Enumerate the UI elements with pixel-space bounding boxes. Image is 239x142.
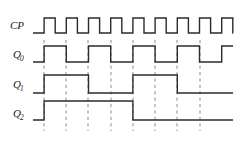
signal-label-cp: CP xyxy=(10,19,24,31)
signal-label-q1-subscript: 1 xyxy=(20,84,24,93)
waveform-cp xyxy=(33,18,233,33)
timing-diagram-svg: CP Q 0 Q 1 Q 2 xyxy=(0,0,239,142)
waveform-q2 xyxy=(33,101,233,120)
timing-diagram-root: CP Q 0 Q 1 Q 2 xyxy=(0,0,239,142)
signal-label-q0-subscript: 0 xyxy=(20,54,24,63)
signal-label-q2-subscript: 2 xyxy=(20,113,24,122)
waveform-q0 xyxy=(33,46,233,62)
waveforms-group xyxy=(33,18,233,120)
signal-labels-group: CP Q 0 Q 1 Q 2 xyxy=(10,19,24,122)
waveform-q1 xyxy=(33,75,233,93)
